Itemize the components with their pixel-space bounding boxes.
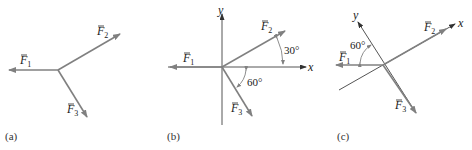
label-f1: F1 xyxy=(338,50,350,66)
panel-c: 60° y x F2 F1 F3 (c) xyxy=(336,8,464,143)
caption-c: (c) xyxy=(337,130,350,143)
x-axis-label: x xyxy=(307,60,314,74)
caption-b: (b) xyxy=(167,130,180,143)
angle-arc-30 xyxy=(277,38,283,64)
angle-arc-60 xyxy=(237,70,246,87)
panel-b: 30° 60° y x F2 F1 F3 (b) xyxy=(167,3,314,143)
vector-f2 xyxy=(383,29,446,65)
angle-label-60: 60° xyxy=(247,76,262,88)
x-axis-label: x xyxy=(457,16,464,30)
caption-a: (a) xyxy=(5,130,18,143)
panel-a: F2 F1 F3 (a) xyxy=(5,24,120,143)
label-f1: F1 xyxy=(19,53,31,69)
vector-f2 xyxy=(222,31,285,67)
vector-f2 xyxy=(58,34,120,70)
y-axis-label: y xyxy=(352,8,359,22)
label-f1: F1 xyxy=(182,51,194,67)
angle-label-60: 60° xyxy=(350,39,365,51)
angle-label-30: 30° xyxy=(284,44,299,56)
force-diagrams: F2 F1 F3 (a) 30° 60° y x F2 F1 F3 (b) xyxy=(0,0,472,150)
y-axis-label: y xyxy=(217,3,224,17)
